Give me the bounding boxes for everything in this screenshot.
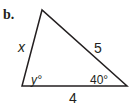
triangle-diagram: b. x 5 4 y° 40° [0,0,133,104]
problem-label: b. [3,7,14,22]
side-left-label: x [17,39,26,55]
angle-bottom-right-label: 40° [90,73,108,87]
angle-bottom-left-label: y° [30,73,42,87]
side-bottom-label: 4 [69,90,77,104]
side-hypotenuse-label: 5 [94,40,102,56]
